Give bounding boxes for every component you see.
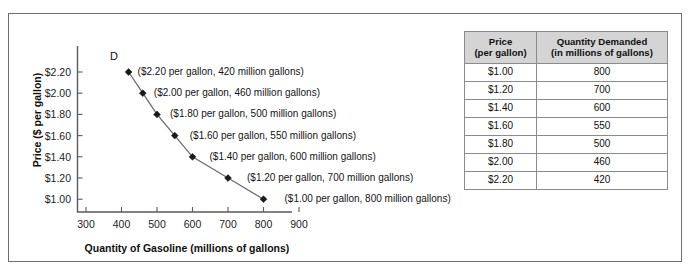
x-axis-ticks bbox=[86, 207, 299, 212]
column-header-quantity-line2: (in millions of gallons) bbox=[539, 48, 665, 58]
cell-price: $1.20 bbox=[465, 82, 537, 100]
demand-schedule-table: Price (per gallon) Quantity Demanded (in… bbox=[464, 31, 668, 190]
y-axis-tick-label: $1.60 bbox=[17, 131, 71, 142]
demand-schedule-table-wrapper: Price (per gallon) Quantity Demanded (in… bbox=[464, 31, 667, 190]
demand-curve-chart: $1.00$1.20$1.40$1.60$1.80$2.00$2.20 3004… bbox=[9, 14, 459, 263]
x-axis-tick-label: 300 bbox=[68, 219, 104, 230]
column-header-price: Price (per gallon) bbox=[465, 32, 537, 64]
y-axis-tick-label: $1.40 bbox=[17, 152, 71, 163]
column-header-price-line2: (per gallon) bbox=[467, 48, 534, 58]
y-axis-title: Price ($ per gallon) bbox=[31, 45, 43, 195]
x-axis-tick-label: 500 bbox=[139, 219, 175, 230]
x-axis-title: Quantity of Gasoline (millions of gallon… bbox=[27, 242, 347, 254]
cell-price: $2.20 bbox=[465, 172, 537, 190]
table-row: $1.40600 bbox=[465, 100, 668, 118]
table-body: $1.00800$1.20700$1.40600$1.60550$1.80500… bbox=[465, 64, 668, 190]
data-point-marker bbox=[260, 196, 267, 203]
y-axis-tick-label: $2.00 bbox=[17, 88, 71, 99]
data-point-annotation: ($1.40 per gallon, 600 million gallons) bbox=[210, 152, 376, 162]
cell-quantity: 500 bbox=[537, 136, 668, 154]
x-axis-tick-label: 800 bbox=[246, 219, 282, 230]
cell-price: $1.40 bbox=[465, 100, 537, 118]
table-row: $1.20700 bbox=[465, 82, 668, 100]
data-point-annotation: ($1.80 per gallon, 500 million gallons) bbox=[170, 109, 336, 119]
y-axis-ticks bbox=[78, 72, 83, 199]
figure-frame: $1.00$1.20$1.40$1.60$1.80$2.00$2.20 3004… bbox=[8, 13, 682, 262]
x-axis-tick-label: 600 bbox=[175, 219, 211, 230]
data-point-marker bbox=[225, 175, 232, 182]
cell-quantity: 800 bbox=[537, 64, 668, 82]
data-point-marker bbox=[125, 69, 132, 76]
x-axis-tick-label: 400 bbox=[104, 219, 140, 230]
cell-price: $1.60 bbox=[465, 118, 537, 136]
figure-root: $1.00$1.20$1.40$1.60$1.80$2.00$2.20 3004… bbox=[0, 0, 690, 276]
cell-quantity: 700 bbox=[537, 82, 668, 100]
cell-quantity: 550 bbox=[537, 118, 668, 136]
cell-price: $1.00 bbox=[465, 64, 537, 82]
table-row: $1.80500 bbox=[465, 136, 668, 154]
x-axis-tick-label: 900 bbox=[281, 219, 317, 230]
demand-curve-label: D bbox=[110, 51, 118, 62]
data-point-annotation: ($2.20 per gallon, 420 million gallons) bbox=[138, 67, 304, 77]
y-axis-tick-label: $1.00 bbox=[17, 194, 71, 205]
table-row: $1.00800 bbox=[465, 64, 668, 82]
y-axis-tick-label: $2.20 bbox=[17, 67, 71, 78]
data-point-annotation: ($2.00 per gallon, 460 million gallons) bbox=[154, 88, 320, 98]
table-row: $2.20420 bbox=[465, 172, 668, 190]
cell-price: $2.00 bbox=[465, 154, 537, 172]
data-point-marker bbox=[139, 90, 146, 97]
cell-quantity: 460 bbox=[537, 154, 668, 172]
y-axis-tick-label: $1.20 bbox=[17, 173, 71, 184]
x-axis-tick-label: 700 bbox=[210, 219, 246, 230]
data-point-annotation: ($1.00 per gallon, 800 million gallons) bbox=[285, 194, 451, 204]
data-point-annotation: ($1.20 per gallon, 700 million gallons) bbox=[247, 173, 413, 183]
table-row: $1.60550 bbox=[465, 118, 668, 136]
column-header-price-line1: Price bbox=[467, 37, 534, 47]
cell-quantity: 600 bbox=[537, 100, 668, 118]
cell-quantity: 420 bbox=[537, 172, 668, 190]
column-header-quantity-line1: Quantity Demanded bbox=[539, 37, 665, 47]
table-row: $2.00460 bbox=[465, 154, 668, 172]
y-axis-tick-label: $1.80 bbox=[17, 109, 71, 120]
cell-price: $1.80 bbox=[465, 136, 537, 154]
column-header-quantity: Quantity Demanded (in millions of gallon… bbox=[537, 32, 668, 64]
table-header: Price (per gallon) Quantity Demanded (in… bbox=[465, 32, 668, 64]
table-header-row: Price (per gallon) Quantity Demanded (in… bbox=[465, 32, 668, 64]
data-point-annotation: ($1.60 per gallon, 550 million gallons) bbox=[190, 131, 356, 141]
